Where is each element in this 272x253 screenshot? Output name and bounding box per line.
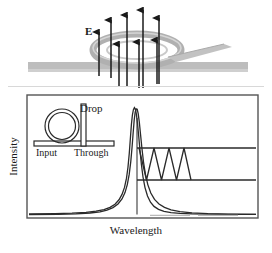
- microring-inner-hole: [107, 41, 167, 59]
- ring-resonator-field-schematic: E: [0, 0, 272, 88]
- inset-input-label: Input: [36, 148, 57, 158]
- panel-divider: [8, 86, 264, 87]
- y-axis-label: Intensity: [8, 122, 19, 192]
- inset-drop-label: Drop: [80, 103, 103, 114]
- electric-field-label: E: [85, 26, 93, 37]
- inset-bus-waveguide: [34, 141, 114, 146]
- top-panel-canvas: [0, 0, 272, 88]
- figure-root: E: [0, 0, 272, 253]
- inset-through-label: Through: [74, 148, 108, 158]
- x-axis-label: Wavelength: [0, 225, 272, 236]
- resonance-spectrum-panel: Drop Input Through Wavelength Intensity: [0, 88, 272, 253]
